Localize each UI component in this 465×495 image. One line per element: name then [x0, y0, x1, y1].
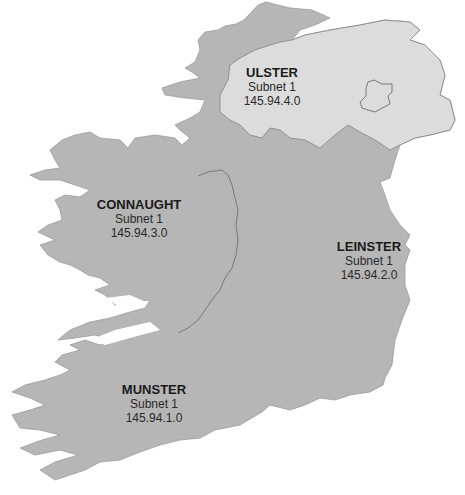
region-ip: 145.94.4.0: [224, 94, 320, 108]
region-label-munster: MUNSTER Subnet 1 145.94.1.0: [104, 383, 204, 425]
region-name: ULSTER: [224, 66, 320, 80]
region-ip: 145.94.2.0: [316, 268, 422, 282]
region-name: CONNAUGHT: [84, 198, 194, 212]
region-label-ulster: ULSTER Subnet 1 145.94.4.0: [224, 66, 320, 108]
region-label-connaught: CONNAUGHT Subnet 1 145.94.3.0: [84, 198, 194, 240]
region-name: LEINSTER: [316, 240, 422, 254]
region-subnet: Subnet 1: [104, 397, 204, 411]
region-ip: 145.94.3.0: [84, 226, 194, 240]
region-label-leinster: LEINSTER Subnet 1 145.94.2.0: [316, 240, 422, 282]
region-ip: 145.94.1.0: [104, 411, 204, 425]
region-subnet: Subnet 1: [224, 80, 320, 94]
region-subnet: Subnet 1: [84, 212, 194, 226]
region-subnet: Subnet 1: [316, 254, 422, 268]
region-name: MUNSTER: [104, 383, 204, 397]
